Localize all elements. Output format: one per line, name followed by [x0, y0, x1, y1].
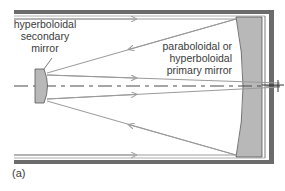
primary-mirror — [236, 17, 262, 157]
secondary-mirror-label: hyperboloidal secondary mirror — [4, 18, 86, 54]
primary-mirror-label: paraboloidal or hyperboloidal primary mi… — [150, 40, 232, 76]
secondary-mirror — [35, 69, 48, 103]
secondary-label-leader — [44, 58, 52, 69]
panel-label: (a) — [12, 167, 25, 179]
telescope-diagram: hyperboloidal secondary mirror paraboloi… — [0, 0, 285, 191]
